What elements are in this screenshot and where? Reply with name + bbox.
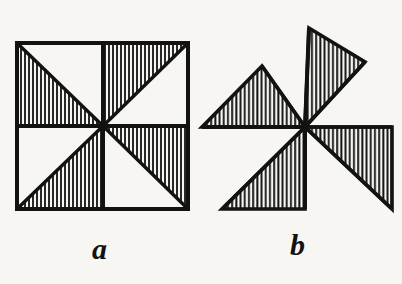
figure-label-a: a xyxy=(92,234,107,264)
figure-label-b: b xyxy=(290,230,305,260)
figure-container: a b xyxy=(0,0,402,284)
panel-a xyxy=(17,43,188,209)
engraving-canvas xyxy=(0,0,402,284)
